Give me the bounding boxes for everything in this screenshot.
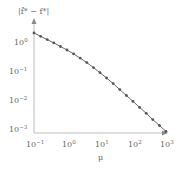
y-axis-arrow-icon xyxy=(32,18,37,24)
data-point-marker xyxy=(132,100,135,103)
y-axis-label: |f̂* − f*| xyxy=(18,7,49,16)
svg-text:10−3: 10−3 xyxy=(9,124,28,134)
data-point-marker xyxy=(39,35,42,38)
svg-text:10−2: 10−2 xyxy=(9,95,27,105)
data-point-marker xyxy=(85,61,88,64)
data-point-marker xyxy=(72,53,75,56)
data-point-marker xyxy=(79,57,82,60)
data-point-marker xyxy=(59,45,62,48)
data-point-marker xyxy=(138,106,141,109)
svg-text:10−1: 10−1 xyxy=(26,139,44,149)
svg-text:10−1: 10−1 xyxy=(9,66,27,76)
data-point-marker xyxy=(46,38,49,41)
data-point-marker xyxy=(158,124,161,127)
data-point-marker xyxy=(151,118,154,121)
data-point-marker xyxy=(145,112,148,115)
data-point-marker xyxy=(125,94,128,97)
svg-text:100: 100 xyxy=(14,37,28,47)
data-point-marker xyxy=(118,88,121,91)
svg-text:102: 102 xyxy=(128,139,142,149)
svg-text:100: 100 xyxy=(62,139,76,149)
data-point-marker xyxy=(66,49,69,52)
data-point-marker xyxy=(33,32,36,35)
series-line xyxy=(34,33,166,131)
x-axis-label: μ xyxy=(98,153,103,162)
series-markers xyxy=(33,32,168,133)
data-point-marker xyxy=(92,66,95,69)
data-point-marker xyxy=(105,77,108,80)
svg-text:103: 103 xyxy=(160,139,174,149)
data-point-marker xyxy=(112,82,115,85)
y-tick-labels: 100 10−1 10−2 10−3 xyxy=(9,37,28,134)
svg-text:101: 101 xyxy=(95,139,109,149)
data-point-marker xyxy=(52,42,55,45)
chart: |f̂* − f*| 100 10−1 10−2 10−3 10−1 100 1… xyxy=(0,0,180,173)
data-point-marker xyxy=(99,71,102,74)
data-point-marker xyxy=(165,130,168,133)
x-tick-labels: 10−1 100 101 102 103 xyxy=(26,139,174,149)
